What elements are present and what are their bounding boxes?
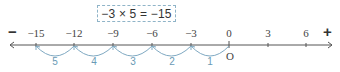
number-line: − + −15 −12 −9 −6 −3 0 3 6 — [0, 0, 340, 72]
jump-arcs — [36, 46, 229, 56]
positive-sign: + — [323, 23, 332, 40]
jump-arc-2 — [152, 46, 191, 56]
tick-label: −3 — [185, 27, 197, 39]
jump-arc-1 — [191, 46, 229, 56]
jump-arc-5 — [36, 46, 74, 56]
tick-label: −9 — [107, 27, 119, 39]
axis-line — [10, 42, 332, 48]
tick-label: 6 — [303, 27, 309, 39]
tick-label: 3 — [265, 27, 271, 39]
tick-labels: −15 −12 −9 −6 −3 0 3 6 — [27, 27, 309, 39]
jump-labels: 1 2 3 4 5 — [52, 56, 213, 67]
jump-label: 3 — [130, 56, 136, 67]
tick-label: −15 — [27, 27, 45, 39]
tick-label: −12 — [65, 27, 82, 39]
tick-label: −6 — [146, 27, 158, 39]
jump-label: 5 — [52, 56, 58, 67]
negative-sign: − — [8, 23, 17, 40]
origin-label: O — [226, 50, 234, 62]
number-line-diagram: −3 × 5 = −15 − + −15 −12 −9 −6 −3 — [0, 0, 340, 72]
jump-label: 1 — [207, 56, 213, 67]
jump-label: 2 — [169, 56, 175, 67]
jump-arc-3 — [113, 46, 152, 56]
jump-arc-4 — [74, 46, 113, 56]
tick-label: 0 — [226, 27, 232, 39]
jump-label: 4 — [91, 56, 97, 67]
